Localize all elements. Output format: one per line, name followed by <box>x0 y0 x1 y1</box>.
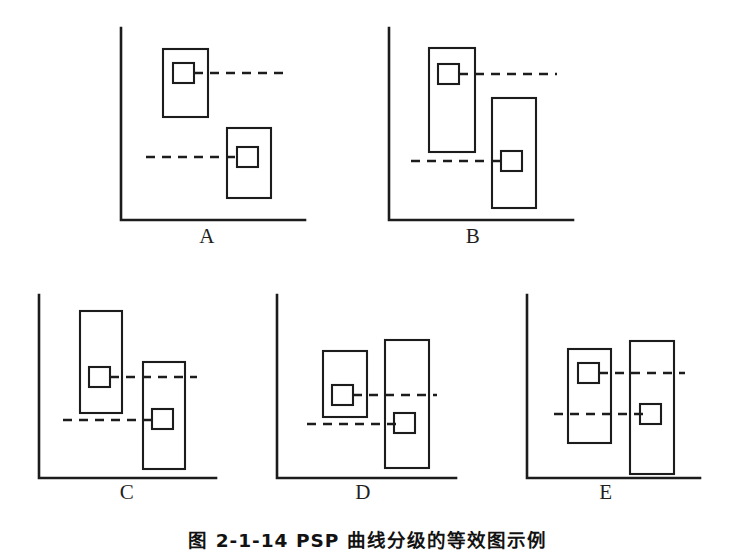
left-marker-e <box>578 363 599 383</box>
right-marker-c <box>152 409 173 429</box>
panel-label-e: E <box>586 482 626 503</box>
right-marker-b <box>501 151 522 171</box>
axis-b <box>389 28 573 220</box>
panel-label-b: B <box>453 226 493 247</box>
panel-a <box>121 28 305 220</box>
right-marker-a <box>237 147 258 167</box>
left-marker-c <box>89 367 110 387</box>
panel-label-c: C <box>107 482 147 503</box>
left-marker-b <box>438 64 459 84</box>
axis-c <box>39 295 216 478</box>
panel-label-a: A <box>187 226 227 247</box>
left-marker-a <box>173 63 194 83</box>
figure-caption: 图 2-1-14 PSP 曲线分级的等效图示例 <box>0 526 735 552</box>
left-range-box-c <box>80 311 122 413</box>
axis-a <box>121 28 305 220</box>
right-range-box-b <box>492 98 536 208</box>
right-marker-e <box>640 404 661 424</box>
right-range-box-d <box>385 340 429 468</box>
panel-d <box>277 295 456 478</box>
panel-e <box>527 295 700 478</box>
panel-label-d: D <box>343 482 383 503</box>
panel-c <box>39 295 216 478</box>
right-range-box-a <box>227 128 271 198</box>
panel-b <box>389 28 573 220</box>
right-marker-d <box>394 413 415 433</box>
left-marker-d <box>332 385 353 405</box>
right-range-box-e <box>630 341 674 474</box>
